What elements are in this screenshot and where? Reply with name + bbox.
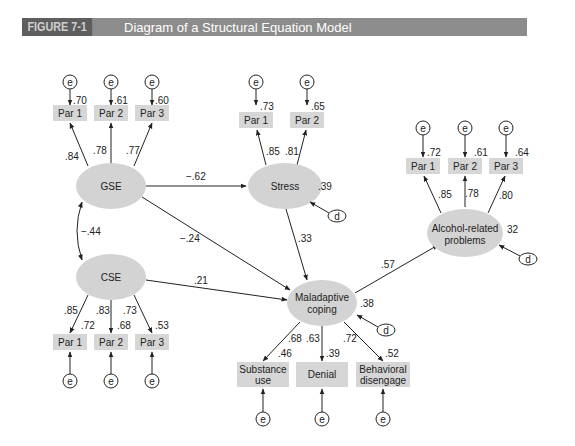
- svg-text:d: d: [383, 325, 389, 336]
- loading-value: .78: [93, 145, 107, 156]
- svg-text:Par 1: Par 1: [58, 337, 82, 348]
- path-stress-coping: [286, 209, 307, 280]
- indicator-box: Par 1: [406, 158, 440, 174]
- svg-text:problems: problems: [444, 235, 485, 246]
- svg-text:e: e: [304, 77, 310, 88]
- r2-value: .65: [311, 101, 325, 112]
- indicator-box: Substanceuse: [237, 362, 289, 387]
- r2-value: .52: [385, 348, 399, 359]
- indicator-box: Par 3: [135, 105, 169, 121]
- indicator-box: Par 1: [239, 112, 273, 128]
- indicator-box: Denial: [296, 362, 348, 387]
- svg-text:Par 2: Par 2: [99, 337, 123, 348]
- loading-value: .85: [266, 146, 280, 157]
- svg-text:Substance: Substance: [239, 364, 287, 375]
- r2-value: .39: [326, 348, 340, 359]
- svg-text:Denial: Denial: [308, 369, 336, 380]
- svg-text:d: d: [334, 211, 340, 222]
- coping-indicators: .68 .63 .72 .46 .39 .52 Substanceuse Den…: [237, 322, 410, 426]
- r2-value: .53: [155, 320, 169, 331]
- latent-stress: Stress .39: [248, 163, 332, 209]
- svg-text:use: use: [255, 375, 272, 386]
- error-icon: e: [63, 374, 77, 388]
- svg-text:Par 1: Par 1: [244, 115, 268, 126]
- loading-value: .73: [123, 305, 137, 316]
- indicator-box: Par 1: [53, 105, 87, 121]
- error-icon: e: [256, 412, 270, 426]
- path-cse-coping: [146, 280, 287, 300]
- svg-text:e: e: [380, 414, 386, 425]
- path-coefficient: .21: [194, 275, 208, 286]
- svg-text:Par 2: Par 2: [453, 161, 477, 172]
- r2-value: .38: [360, 298, 374, 309]
- latent-gse: GSE: [76, 163, 146, 209]
- gse-indicators: e e e .70 .61 .60 Par 1 Par 2 Par 3 .84 …: [53, 75, 169, 166]
- r2-value: .60: [155, 95, 169, 106]
- svg-text:e: e: [149, 376, 155, 387]
- indicator-box: Par 2: [94, 105, 128, 121]
- r2-value: .64: [515, 147, 529, 158]
- indicator-box: Par 2: [448, 158, 482, 174]
- r2-value: .61: [474, 147, 488, 158]
- svg-text:coping: coping: [307, 304, 336, 315]
- svg-text:e: e: [260, 414, 266, 425]
- disturbance-icon: d: [377, 324, 395, 336]
- r2-value: .46: [278, 348, 292, 359]
- indicator-box: Par 3: [135, 334, 169, 350]
- loading-value: .72: [343, 333, 357, 344]
- svg-text:e: e: [108, 376, 114, 387]
- loading-value: .63: [306, 333, 320, 344]
- svg-text:e: e: [108, 77, 114, 88]
- loading-value: .78: [465, 188, 479, 199]
- stress-indicators: e e .73 .65 Par 1 Par 2 .85 .81: [239, 75, 325, 165]
- loading-value: .81: [285, 146, 299, 157]
- svg-text:e: e: [420, 123, 426, 134]
- error-icon: e: [145, 75, 159, 89]
- error-icon: e: [499, 121, 513, 135]
- svg-text:d: d: [525, 254, 531, 265]
- r2-value: .73: [260, 101, 274, 112]
- svg-text:Par 3: Par 3: [140, 108, 164, 119]
- error-icon: e: [104, 374, 118, 388]
- svg-text:GSE: GSE: [100, 181, 121, 192]
- svg-text:e: e: [67, 77, 73, 88]
- svg-text:e: e: [253, 77, 259, 88]
- svg-text:e: e: [319, 414, 325, 425]
- svg-text:Par 1: Par 1: [411, 161, 435, 172]
- svg-text:Stress: Stress: [271, 181, 299, 192]
- path-coefficient: −.44: [81, 226, 101, 237]
- error-icon: e: [416, 121, 430, 135]
- alcohol-indicators: e e e .72 .61 .64 Par 1 Par 2 Par 3 .85 …: [406, 121, 529, 213]
- sem-diagram: e e e .70 .61 .60 Par 1 Par 2 Par 3 .84 …: [0, 0, 575, 446]
- r2-value: .70: [73, 95, 87, 106]
- latent-cse: CSE: [76, 254, 146, 300]
- r2-value: .72: [81, 320, 95, 331]
- svg-text:CSE: CSE: [101, 272, 122, 283]
- svg-text:e: e: [149, 77, 155, 88]
- svg-text:disengage: disengage: [360, 375, 407, 386]
- error-icon: e: [249, 75, 263, 89]
- indicator-box: Par 2: [94, 334, 128, 350]
- svg-text:Alcohol-related: Alcohol-related: [432, 223, 499, 234]
- svg-text:Par 3: Par 3: [494, 161, 518, 172]
- path-coefficient: −.24: [180, 233, 200, 244]
- disturbance-icon: d: [328, 210, 346, 222]
- svg-text:e: e: [503, 123, 509, 134]
- error-icon: e: [458, 121, 472, 135]
- error-icon: e: [315, 412, 329, 426]
- r2-value: .72: [427, 147, 441, 158]
- indicator-box: Par 3: [489, 158, 523, 174]
- loading-value: .77: [126, 145, 140, 156]
- svg-text:Par 1: Par 1: [58, 108, 82, 119]
- error-icon: e: [63, 75, 77, 89]
- latent-maladaptive-coping: Maladaptive coping .38: [287, 280, 374, 326]
- path-coping-alcohol: [355, 245, 438, 293]
- disturbance-icon: d: [519, 253, 537, 265]
- cse-indicators: .85 .83 .73 .72 .68 .53 Par 1 Par 2 Par …: [53, 295, 169, 388]
- error-icon: e: [104, 75, 118, 89]
- svg-text:Behavioral: Behavioral: [359, 364, 406, 375]
- r2-value: 32: [507, 224, 519, 235]
- error-icon: e: [145, 374, 159, 388]
- path-coefficient: −.62: [186, 171, 206, 182]
- indicator-box: Par 1: [53, 334, 87, 350]
